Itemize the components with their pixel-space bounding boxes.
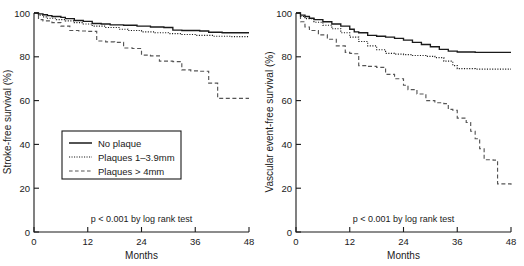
x-tick-marks xyxy=(34,227,249,232)
p-value-annotation: p < 0.001 by log rank test xyxy=(91,214,193,224)
axis-lines xyxy=(34,13,249,232)
y-tick-label-0: 0 xyxy=(287,227,292,238)
x-tick-label-48: 48 xyxy=(506,236,517,247)
p-value-annotation: p < 0.001 by log rank test xyxy=(353,214,455,224)
axis-lines xyxy=(296,13,511,232)
x-tick-label-12: 12 xyxy=(82,236,93,247)
y-tick-marks xyxy=(34,13,39,232)
y-tick-label-40: 40 xyxy=(281,139,292,150)
y-tick-marks xyxy=(296,13,301,232)
curve-plaques-1-39mm xyxy=(34,13,249,37)
y-axis-title: Vascular event-free survival (%) xyxy=(264,52,275,193)
y-axis-title: Stroke-free survival (%) xyxy=(2,70,13,174)
x-tick-label-0: 0 xyxy=(293,236,298,247)
y-tick-label-40: 40 xyxy=(19,139,30,150)
legend-label-plaques-large: Plaques > 4mm xyxy=(98,166,164,177)
x-axis-title: Months xyxy=(125,250,158,261)
x-tick-label-36: 36 xyxy=(452,236,463,247)
x-tick-label-48: 48 xyxy=(244,236,255,247)
y-tick-label-100: 100 xyxy=(14,8,30,19)
panel-vascular-event-free-survival: Vascular event-free survival (%) 0 20 40… xyxy=(262,0,524,266)
x-tick-label-12: 12 xyxy=(344,236,355,247)
y-tick-label-20: 20 xyxy=(19,183,30,194)
y-tick-label-60: 60 xyxy=(19,95,30,106)
y-tick-label-60: 60 xyxy=(281,95,292,106)
left-plot-svg: Stroke-free survival (%) 0 20 40 60 80 1… xyxy=(0,0,262,266)
legend: No plaque Plaques 1–3.9mm Plaques > 4mm xyxy=(62,131,181,179)
y-tick-label-20: 20 xyxy=(281,183,292,194)
x-axis-title: Months xyxy=(387,250,420,261)
x-tick-label-36: 36 xyxy=(190,236,201,247)
x-tick-label-24: 24 xyxy=(398,236,409,247)
legend-label-no-plaque: No plaque xyxy=(98,138,141,149)
panel-stroke-free-survival: Stroke-free survival (%) 0 20 40 60 80 1… xyxy=(0,0,262,266)
curve-no-plaque xyxy=(34,13,249,33)
x-tick-label-0: 0 xyxy=(31,236,36,247)
y-tick-label-80: 80 xyxy=(19,51,30,62)
right-plot-svg: Vascular event-free survival (%) 0 20 40… xyxy=(262,0,524,266)
x-tick-label-24: 24 xyxy=(136,236,147,247)
y-tick-label-100: 100 xyxy=(276,8,292,19)
x-tick-marks xyxy=(296,227,511,232)
y-tick-label-0: 0 xyxy=(25,227,30,238)
survival-curve-figure: Stroke-free survival (%) 0 20 40 60 80 1… xyxy=(0,0,524,266)
curve-no-plaque xyxy=(296,13,511,52)
y-tick-label-80: 80 xyxy=(281,51,292,62)
legend-label-plaques-small: Plaques 1–3.9mm xyxy=(98,152,175,163)
